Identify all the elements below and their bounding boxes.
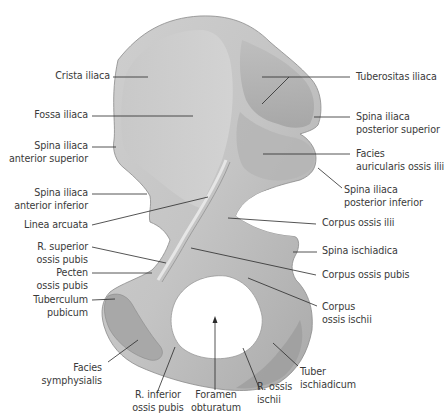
label-text: Spina ischiadica xyxy=(322,245,398,258)
label-text: Corpus ossis ilii xyxy=(322,217,394,230)
label-text: Crista iliaca xyxy=(55,70,110,83)
label-r-ossis-ischii: R. ossis ischii xyxy=(257,381,292,406)
label-text: symphysialis xyxy=(41,375,102,388)
label-text: obturatum xyxy=(186,402,246,415)
label-pecten-ossis-pubis: Pecten ossis pubis xyxy=(37,267,88,292)
label-text: ossis ischii xyxy=(322,314,372,327)
label-tuberositas-iliaca: Tuberositas iliaca xyxy=(356,71,437,84)
label-text: Tuberositas iliaca xyxy=(356,71,437,84)
label-text: Foramen xyxy=(186,389,246,402)
label-text: auricularis ossis ilii xyxy=(356,161,444,174)
hip-bone-diagram: Crista iliaca Fossa iliaca Spina iliaca … xyxy=(0,0,446,418)
label-text: posterior superior xyxy=(356,124,440,137)
label-text: Corpus xyxy=(322,301,372,314)
label-text: Facies xyxy=(356,148,444,161)
label-text: Pecten xyxy=(37,267,88,280)
label-linea-arcuata: Linea arcuata xyxy=(24,219,88,232)
label-crista-iliaca: Crista iliaca xyxy=(55,70,110,83)
label-text: posterior inferior xyxy=(344,197,423,210)
label-text: Linea arcuata xyxy=(24,219,88,232)
label-text: R. ossis xyxy=(257,381,292,394)
label-r-inferior-ossis-pubis: R. inferior ossis pubis xyxy=(128,389,188,414)
label-fossa-iliaca: Fossa iliaca xyxy=(34,109,88,122)
label-spina-iliaca-anterior-superior: Spina iliaca anterior superior xyxy=(9,140,88,165)
label-text: R. inferior xyxy=(128,389,188,402)
label-text: Facies xyxy=(41,362,102,375)
label-text: anterior inferior xyxy=(14,200,88,213)
label-text: R. superior xyxy=(37,241,88,254)
label-facies-symphysialis: Facies symphysialis xyxy=(41,362,102,387)
label-text: Spina iliaca xyxy=(356,111,440,124)
label-text: ischiadicum xyxy=(300,379,356,392)
label-corpus-ossis-ischii: Corpus ossis ischii xyxy=(322,301,372,326)
label-text: anterior superior xyxy=(9,153,88,166)
label-text: pubicum xyxy=(33,307,88,320)
label-corpus-ossis-pubis: Corpus ossis pubis xyxy=(322,269,409,282)
label-text: Spina iliaca xyxy=(14,187,88,200)
label-text: Corpus ossis pubis xyxy=(322,269,409,282)
label-tuberculum-pubicum: Tuberculum pubicum xyxy=(33,294,88,319)
label-text: ischii xyxy=(257,394,292,407)
label-spina-ischiadica: Spina ischiadica xyxy=(322,245,398,258)
label-spina-iliaca-anterior-inferior: Spina iliaca anterior inferior xyxy=(14,187,88,212)
label-spina-iliaca-posterior-superior: Spina iliaca posterior superior xyxy=(356,111,440,136)
label-text: Tuber xyxy=(300,366,356,379)
label-text: ossis pubis xyxy=(128,402,188,415)
label-r-superior-ossis-pubis: R. superior ossis pubis xyxy=(37,241,88,266)
label-corpus-ossis-ilii: Corpus ossis ilii xyxy=(322,217,394,230)
label-foramen-obturatum: Foramen obturatum xyxy=(186,389,246,414)
label-text: Tuberculum xyxy=(33,294,88,307)
label-text: Spina iliaca xyxy=(344,184,423,197)
label-facies-auricularis-ossis-ilii: Facies auricularis ossis ilii xyxy=(356,148,444,173)
label-tuber-ischiadicum: Tuber ischiadicum xyxy=(300,366,356,391)
label-text: ossis pubis xyxy=(37,280,88,293)
label-text: Spina iliaca xyxy=(9,140,88,153)
label-text: ossis pubis xyxy=(37,254,88,267)
label-text: Fossa iliaca xyxy=(34,109,88,122)
label-spina-iliaca-posterior-inferior: Spina iliaca posterior inferior xyxy=(344,184,423,209)
